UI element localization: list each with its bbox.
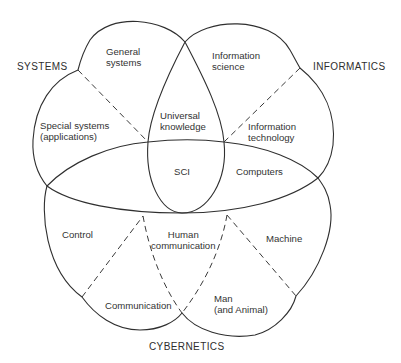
cybernetics-outline: [44, 178, 331, 336]
label-special-systems: Special systems (applications): [40, 120, 109, 142]
label-man-and-animal: Man (and Animal): [214, 293, 268, 315]
label-human-communication: Human communication: [151, 229, 216, 251]
label-general-systems: General systems: [106, 46, 141, 68]
label-communication: Communication: [105, 300, 172, 311]
heading-cybernetics: CYBERNETICS: [149, 341, 225, 352]
label-machine: Machine: [266, 233, 302, 244]
cybernetics-right-divider-line: [227, 215, 296, 296]
informatics-outline: [185, 24, 333, 178]
venn-diagram: [0, 0, 401, 363]
label-information-technology: Information technology: [248, 121, 296, 143]
label-universal-knowledge: Universal knowledge: [160, 110, 206, 132]
label-computers: Computers: [236, 166, 283, 177]
heading-informatics: INFORMATICS: [313, 61, 386, 72]
heading-systems: SYSTEMS: [17, 61, 68, 72]
label-control: Control: [62, 229, 93, 240]
label-sci: SCI: [174, 166, 190, 177]
label-information-science: Information science: [212, 50, 260, 72]
